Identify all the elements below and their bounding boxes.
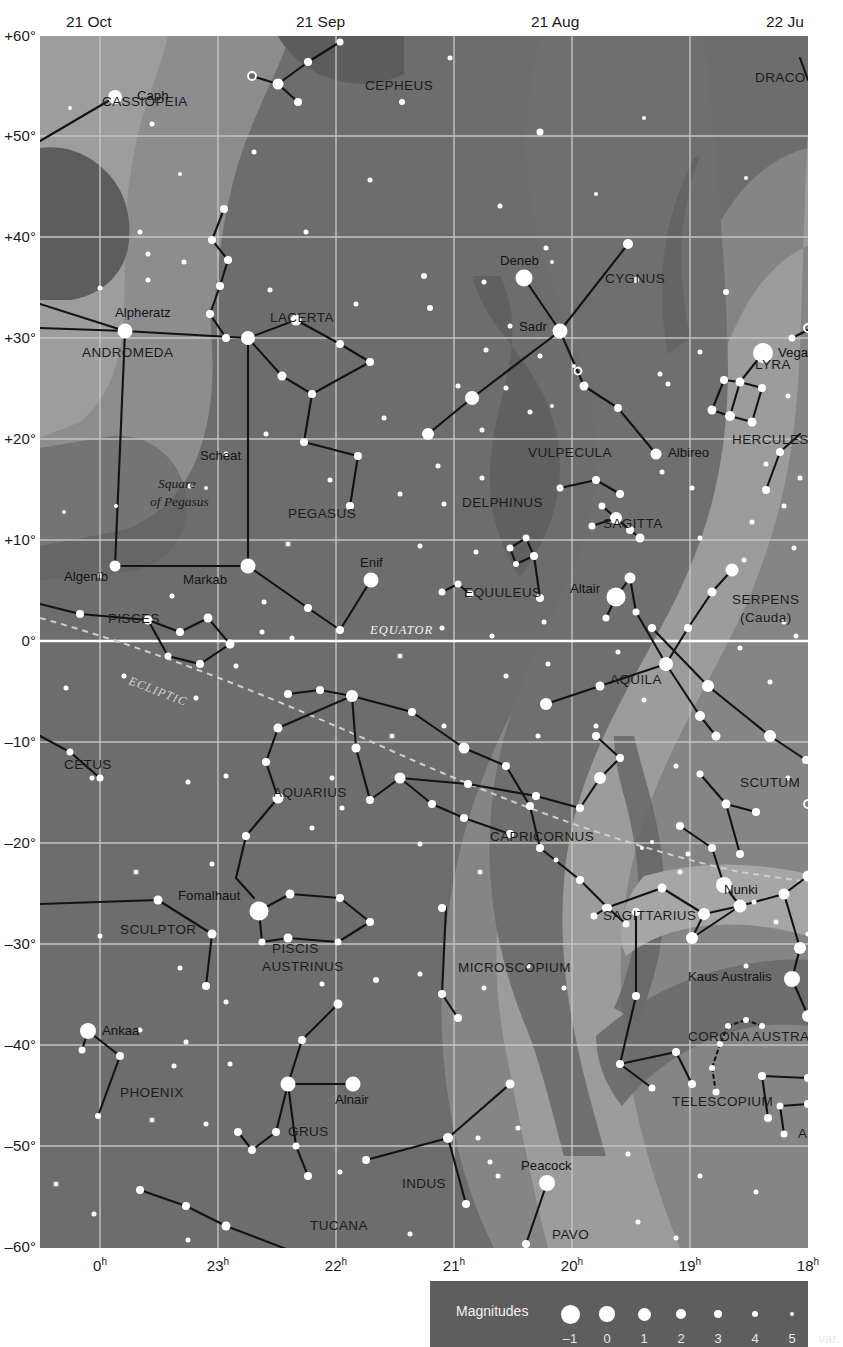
constellation-label: PAVO (552, 1227, 589, 1242)
legend-title: Magnitudes (456, 1303, 528, 1319)
constellation-label: SCULPTOR (120, 922, 196, 937)
constellation-label: PEGASUS (288, 506, 356, 521)
star-name-label: Markab (183, 572, 227, 587)
constellation-label: AUSTRINUS (262, 959, 344, 974)
date-tick-label: 21 Aug (531, 13, 579, 31)
constellation-label: EQUULEUS (464, 585, 541, 600)
dec-tick-label: +60° (0, 27, 36, 44)
legend-magnitude-label: 1 (624, 1331, 664, 1346)
star-name-label: Fomalhaut (178, 888, 241, 903)
star-name-label: Enif (360, 555, 383, 570)
star-name-label: Alpheratz (115, 305, 171, 320)
ra-tick-label: 20h (542, 1256, 602, 1274)
constellation-label: CEPHEUS (365, 78, 433, 93)
star-name-label: Nunki (724, 882, 758, 897)
star-name-label: Alnair (335, 1092, 369, 1107)
sky-map-plate[interactable]: CASSIOPEIACEPHEUSDRACOLACERTACYGNUSANDRO… (40, 36, 808, 1248)
dec-tick-label: +40° (0, 228, 36, 245)
constellation-label: SAGITTARIUS (603, 908, 696, 923)
ra-tick-label: 18h (778, 1256, 838, 1274)
dec-tick-label: +30° (0, 329, 36, 346)
star-name-label: Vega (778, 345, 808, 360)
constellation-label: DELPHINUS (462, 495, 543, 510)
sky-map-svg[interactable]: CASSIOPEIACEPHEUSDRACOLACERTACYGNUSANDRO… (40, 36, 808, 1248)
star-name-label: Albireo (668, 445, 709, 460)
star-name-label: Ankaa (102, 1023, 140, 1038)
constellation-label: ANDROMEDA (82, 345, 173, 360)
dec-tick-label: 0° (0, 632, 36, 649)
constellation-label: SAGITTA (603, 516, 663, 531)
dec-tick-label: –60° (0, 1238, 36, 1255)
constellation-label: PISCES (108, 611, 160, 626)
constellation-label: HERCULES (732, 432, 808, 447)
star-name-label: Peacock (521, 1158, 572, 1173)
legend-magnitude-dot (714, 1310, 722, 1318)
legend-magnitude-label: 5 (772, 1331, 812, 1346)
dec-tick-label: –20° (0, 834, 36, 851)
constellation-label: AQUARIUS (273, 785, 347, 800)
ra-tick-label: 0h (70, 1256, 130, 1274)
constellation-label: SCUTUM (740, 775, 800, 790)
legend-magnitude-label: 0 (587, 1331, 627, 1346)
constellation-label: DRACO (755, 70, 806, 85)
constellation-label: MICROSCOPIUM (458, 960, 571, 975)
constellation-label: SERPENS (732, 592, 799, 607)
square-of-pegasus-label-line2: of Pegasus (150, 494, 209, 509)
constellation-label: PISCIS (272, 941, 319, 956)
equator-label: EQUATOR (369, 623, 433, 637)
square-of-pegasus-label-line1: Square (158, 476, 196, 491)
constellation-label: INDUS (402, 1176, 446, 1191)
constellation-label: LACERTA (270, 310, 334, 325)
ra-tick-label: 23h (188, 1256, 248, 1274)
dec-tick-label: –30° (0, 935, 36, 952)
date-tick-label: 21 Sep (296, 13, 345, 31)
legend-magnitude-label: 3 (698, 1331, 738, 1346)
constellation-label: CAPRICORNUS (490, 829, 594, 844)
legend-magnitude-dot (676, 1309, 687, 1320)
star-name-label: Sadr (519, 319, 547, 334)
star-name-label: Caph (137, 88, 169, 103)
legend-variable-star-symbol (825, 1310, 835, 1320)
constellation-label: AQUILA (610, 672, 662, 687)
constellation-label: TELESCOPIUM (672, 1094, 773, 1109)
star-name-label: Kaus Australis (688, 969, 772, 984)
constellation-label: CETUS (64, 757, 112, 772)
dec-tick-label: –40° (0, 1036, 36, 1053)
legend-magnitude-label: var. (809, 1331, 843, 1346)
legend-magnitude-dot (638, 1308, 651, 1321)
legend-magnitude-dot (599, 1306, 615, 1322)
star-name-label: Altair (570, 581, 601, 596)
legend-magnitude-dot (790, 1312, 795, 1317)
ra-tick-label: 19h (660, 1256, 720, 1274)
constellation-label: GRUS (288, 1124, 329, 1139)
ra-tick-label: 21h (424, 1256, 484, 1274)
date-tick-label: 22 Ju (766, 13, 804, 31)
date-tick-label: 21 Oct (66, 13, 112, 31)
star-name-label: Deneb (500, 253, 539, 268)
star-name-label: Scheat (200, 448, 241, 463)
legend-magnitude-label: 4 (735, 1331, 775, 1346)
dec-tick-label: +20° (0, 430, 36, 447)
dec-tick-label: +10° (0, 531, 36, 548)
ra-tick-label: 22h (306, 1256, 366, 1274)
constellation-label: PHOENIX (120, 1085, 184, 1100)
constellation-label: VULPECULA (528, 445, 612, 460)
legend-magnitude-dot (752, 1311, 758, 1317)
constellation-label: TUCANA (310, 1218, 368, 1233)
dec-tick-label: –50° (0, 1137, 36, 1154)
dec-tick-label: +50° (0, 127, 36, 144)
dec-tick-label: –10° (0, 733, 36, 750)
magnitude-legend: Magnitudes –1012345var. (430, 1281, 808, 1347)
constellation-label: (Cauda) (740, 610, 792, 625)
star-name-label: Algenib (64, 569, 108, 584)
legend-magnitude-label: 2 (661, 1331, 701, 1346)
legend-magnitude-dot (561, 1305, 580, 1324)
constellation-label: CORONA AUSTRALIS (688, 1029, 808, 1044)
constellation-label: ARA (798, 1126, 808, 1141)
legend-magnitude-label: –1 (550, 1331, 590, 1346)
constellation-label: CYGNUS (605, 271, 665, 286)
